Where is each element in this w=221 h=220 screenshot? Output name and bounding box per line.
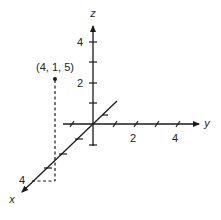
z-tick-label-2: 2 — [77, 77, 83, 89]
z-axis-label: z — [89, 7, 96, 19]
z-axis — [89, 26, 97, 146]
x-axis-label: x — [8, 193, 15, 205]
z-tick-label-4: 4 — [77, 36, 83, 48]
y-axis-label: y — [203, 117, 211, 129]
y-axis — [63, 121, 199, 127]
projection-lines — [32, 80, 55, 181]
x-tick-label-4: 4 — [19, 174, 25, 186]
y-tick-label-2: 2 — [130, 132, 136, 144]
coordinate-diagram: (4, 1, 5) z 4 2 y 2 4 4 x — [0, 0, 221, 220]
x-axis — [22, 101, 117, 192]
point-marker — [53, 77, 57, 81]
point-label: (4, 1, 5) — [36, 61, 74, 73]
y-tick-label-4: 4 — [172, 132, 178, 144]
